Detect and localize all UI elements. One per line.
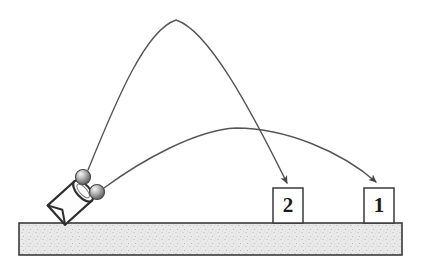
ball-lower	[90, 185, 105, 200]
ball-upper-sphere	[76, 170, 91, 185]
projectile-diagram: 2 1	[0, 0, 422, 267]
ball-upper	[76, 170, 91, 185]
target-box-2: 2	[273, 188, 303, 223]
diagram-canvas: 2 1	[0, 0, 422, 267]
ground-surface	[19, 223, 402, 255]
trajectory-high-arc	[88, 20, 287, 183]
ball-lower-sphere	[90, 185, 105, 200]
launcher-cup	[48, 177, 97, 225]
trajectory-low-arc	[104, 128, 376, 188]
target-box-1-label: 1	[374, 193, 385, 217]
trajectory-high-arc-path	[88, 20, 287, 183]
target-box-1: 1	[364, 188, 394, 223]
ground-bar	[19, 223, 402, 255]
trajectory-low-arc-path	[104, 128, 376, 188]
target-box-2-label: 2	[283, 193, 294, 217]
